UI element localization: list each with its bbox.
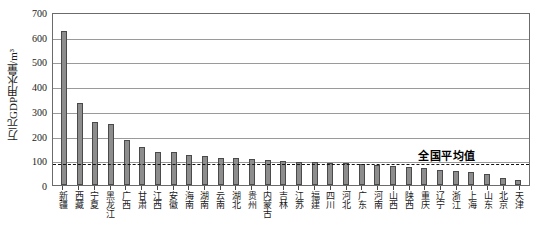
bar-slot — [87, 14, 103, 185]
x-label-slot: 江苏 — [291, 191, 307, 239]
x-tick-mark — [141, 186, 142, 190]
x-tick-mark — [409, 186, 410, 190]
bar — [390, 166, 396, 185]
bar-slot — [307, 14, 323, 185]
bar-slot — [228, 14, 244, 185]
x-tick-mark — [94, 186, 95, 190]
x-tick-mark — [503, 186, 504, 190]
x-tick-label: 贵州 — [247, 191, 256, 209]
x-tick-mark — [519, 186, 520, 190]
bar — [108, 124, 114, 185]
x-tick-label: 浙江 — [452, 191, 461, 209]
x-tick-mark — [267, 186, 268, 190]
x-tick-label: 甘肃 — [137, 191, 146, 209]
x-label-slot: 贵州 — [244, 191, 260, 239]
x-tick-mark — [157, 186, 158, 190]
x-tick-label: 海南 — [184, 191, 193, 209]
x-tick-mark — [346, 186, 347, 190]
y-tick-label: 600 — [32, 32, 47, 43]
x-tick-mark — [235, 186, 236, 190]
bar-slot — [369, 14, 385, 185]
x-tick-label: 福建 — [310, 191, 319, 209]
x-label-slot: 宁夏 — [86, 191, 102, 239]
x-label-slot: 山东 — [480, 191, 496, 239]
bar — [249, 159, 255, 185]
bar-slot — [56, 14, 72, 185]
bar-slot — [322, 14, 338, 185]
x-tick-label: 新疆 — [58, 191, 67, 209]
bar-slot — [260, 14, 276, 185]
x-tick-mark — [62, 186, 63, 190]
bar-slot — [354, 14, 370, 185]
x-label-slot: 陕西 — [401, 191, 417, 239]
bar — [374, 165, 380, 185]
bar — [218, 158, 224, 185]
x-tick-label: 湖南 — [200, 191, 209, 209]
bar — [468, 172, 474, 185]
x-tick-mark — [283, 186, 284, 190]
x-tick-label: 黑龙江 — [106, 191, 115, 218]
x-tick-label: 四川 — [326, 191, 335, 209]
x-label-slot: 新疆 — [55, 191, 71, 239]
bar-slot — [479, 14, 495, 185]
x-tick-label: 陕西 — [405, 191, 414, 209]
x-label-slot: 安徽 — [165, 191, 181, 239]
bar — [92, 122, 98, 185]
y-tick-label: 0 — [42, 181, 47, 192]
bar — [421, 168, 427, 185]
x-tick-mark — [251, 186, 252, 190]
x-label-slot: 北京 — [496, 191, 512, 239]
x-tick-label: 天津 — [515, 191, 524, 209]
x-tick-label: 西藏 — [74, 191, 83, 209]
x-tick-mark — [188, 186, 189, 190]
x-tick-label: 上海 — [467, 191, 476, 209]
x-tick-mark — [78, 186, 79, 190]
bar — [202, 156, 208, 185]
bar-slot — [181, 14, 197, 185]
x-tick-label: 江西 — [153, 191, 162, 209]
bar — [484, 174, 490, 185]
x-label-slot: 上海 — [464, 191, 480, 239]
y-axis-tick-labels: 0100200300400500600700 — [20, 0, 50, 195]
x-label-slot: 山西 — [385, 191, 401, 239]
x-tick-label: 广东 — [357, 191, 366, 209]
x-tick-mark — [173, 186, 174, 190]
x-label-slot: 辽宁 — [433, 191, 449, 239]
y-axis-title-text: 万元GDP用水量/m³ — [5, 49, 21, 141]
x-tick-label: 北京 — [499, 191, 508, 209]
x-tick-label: 辽宁 — [436, 191, 445, 209]
x-tick-label: 安徽 — [169, 191, 178, 209]
national-average-line — [53, 164, 529, 165]
x-label-slot: 广西 — [118, 191, 134, 239]
bar — [61, 31, 67, 185]
y-tick-label: 700 — [32, 8, 47, 19]
x-label-slot: 河北 — [338, 191, 354, 239]
bar-slot — [150, 14, 166, 185]
bar — [77, 103, 83, 185]
bar-slot — [385, 14, 401, 185]
y-tick-label: 100 — [32, 156, 47, 167]
x-label-slot: 云南 — [212, 191, 228, 239]
bar-slot — [213, 14, 229, 185]
y-tick-label: 500 — [32, 57, 47, 68]
x-tick-mark — [440, 186, 441, 190]
x-tick-mark — [487, 186, 488, 190]
x-tick-label: 吉林 — [279, 191, 288, 209]
bar-slot — [72, 14, 88, 185]
x-tick-mark — [424, 186, 425, 190]
bar-slot — [338, 14, 354, 185]
bar-slot — [119, 14, 135, 185]
x-tick-label: 广西 — [121, 191, 130, 209]
x-label-slot: 湖北 — [228, 191, 244, 239]
x-label-slot: 江西 — [149, 191, 165, 239]
x-label-slot: 重庆 — [417, 191, 433, 239]
bar — [500, 178, 506, 185]
x-tick-mark — [110, 186, 111, 190]
x-tick-mark — [330, 186, 331, 190]
x-tick-label: 湖北 — [231, 191, 240, 209]
x-tick-label: 云南 — [216, 191, 225, 209]
bar — [343, 163, 349, 185]
x-tick-label: 重庆 — [420, 191, 429, 209]
bar — [453, 171, 459, 185]
bar-slot — [401, 14, 417, 185]
